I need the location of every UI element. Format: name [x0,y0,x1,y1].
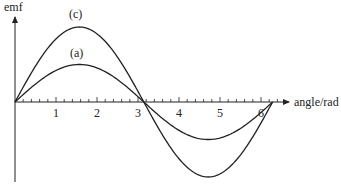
x-tick-label: 2 [94,106,100,120]
x-minor-ticks [23,97,277,102]
x-tick-label: 5 [217,106,223,120]
curve-a-label: (a) [70,46,83,60]
axes [15,17,289,182]
curve-c-label: (c) [69,7,82,21]
x-axis-label: angle/rad [294,95,339,109]
x-tick-label: 4 [176,106,182,120]
emf-angle-chart: 123456 emf angle/rad (c) (a) [0,0,341,190]
x-tick-labels: 123456 [53,106,264,120]
x-tick-label: 1 [53,106,59,120]
x-tick-label: 3 [135,106,141,120]
y-axis-label: emf [4,0,23,14]
